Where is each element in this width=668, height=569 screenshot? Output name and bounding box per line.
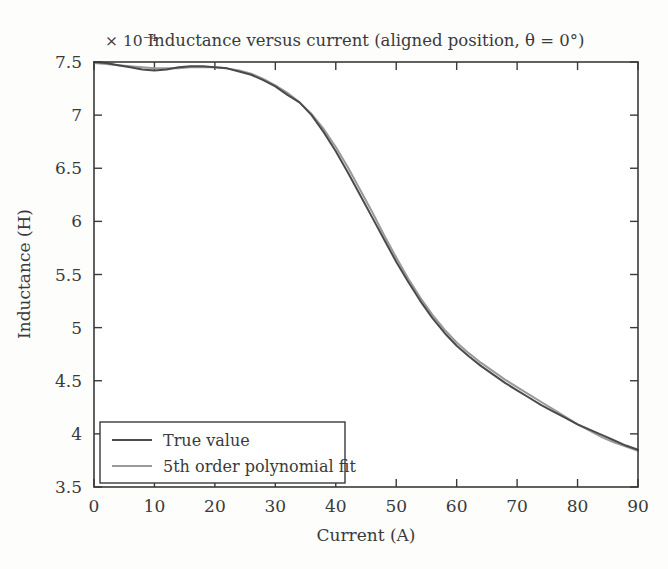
y-tick-label: 6.5 [55,158,82,178]
y-tick-label: 5 [71,318,82,338]
x-tick-label: 20 [204,496,226,516]
y-tick-label: 6 [71,211,82,231]
x-tick-label: 30 [265,496,287,516]
y-axis-exponent-label: × 10⁻⁴ [105,32,157,50]
x-tick-label: 70 [506,496,528,516]
y-tick-label: 7 [71,105,82,125]
inductance-line-chart: Inductance versus current (aligned posit… [0,0,668,569]
y-tick-label: 3.5 [55,477,82,497]
chart-figure: Inductance versus current (aligned posit… [0,0,668,569]
legend-label-true-value: True value [163,431,250,450]
x-tick-label: 80 [567,496,589,516]
x-tick-label: 0 [89,496,100,516]
x-axis-title: Current (A) [317,525,416,545]
y-tick-label: 4 [71,424,82,444]
chart-legend: True value 5th order polynomial fit [100,422,356,483]
y-tick-label: 5.5 [55,265,82,285]
x-tick-label: 60 [446,496,468,516]
y-tick-label: 4.5 [55,371,82,391]
x-tick-label: 90 [627,496,649,516]
y-tick-label: 7.5 [55,52,82,72]
x-tick-label: 50 [385,496,407,516]
y-axis-title: Inductance (H) [14,209,34,339]
x-tick-label: 40 [325,496,347,516]
chart-title: Inductance versus current (aligned posit… [148,31,585,50]
legend-label-polynomial-fit: 5th order polynomial fit [163,457,356,476]
x-tick-label: 10 [144,496,166,516]
